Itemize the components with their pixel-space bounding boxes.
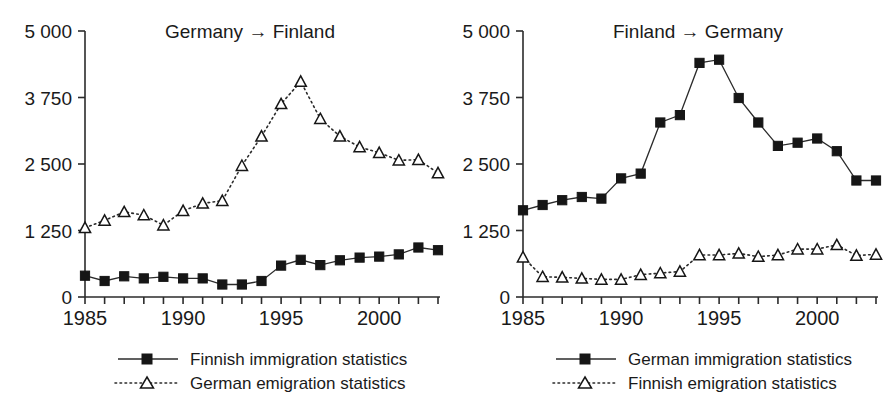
legend-label-left-series-1: German emigration statistics bbox=[190, 374, 405, 393]
data-point-right-1-1996 bbox=[733, 248, 744, 258]
data-point-left-1-2003 bbox=[432, 167, 443, 177]
data-point-left-0-2003 bbox=[433, 246, 442, 255]
chart-title-left: Germany → Finland bbox=[165, 21, 335, 42]
data-point-left-0-1998 bbox=[335, 256, 344, 265]
data-point-left-1-1999 bbox=[354, 141, 365, 151]
figure-container: Germany → Finland 0 1 250 2 500 3 750 5 … bbox=[0, 0, 896, 412]
x-tick-labels-right: 1985199019952000 bbox=[501, 307, 840, 329]
data-point-right-0-1990 bbox=[617, 174, 626, 183]
legend-square-marker-left bbox=[142, 354, 152, 364]
data-point-right-0-1992 bbox=[656, 118, 665, 127]
y-tick-label-2500: 2 500 bbox=[24, 154, 72, 175]
data-point-left-1-1997 bbox=[315, 113, 326, 123]
data-point-right-0-1999 bbox=[793, 138, 802, 147]
data-point-left-1-2001 bbox=[393, 155, 404, 165]
x-tick-label-1995: 1995 bbox=[697, 307, 742, 329]
data-point-left-0-1985 bbox=[80, 271, 89, 280]
data-point-left-0-1994 bbox=[257, 276, 266, 285]
legend-square-marker-right bbox=[580, 354, 590, 364]
legend-label-right-series-0: German immigration statistics bbox=[628, 350, 852, 369]
data-point-left-1-1987 bbox=[119, 206, 130, 216]
y-tick-label-3750-right: 3 750 bbox=[462, 88, 510, 109]
chart-svg-left: Germany → Finland 0 1 250 2 500 3 750 5 … bbox=[0, 0, 448, 412]
data-point-right-1-2003 bbox=[870, 249, 881, 259]
legend-left: Finnish immigration statistics German em… bbox=[115, 350, 407, 393]
data-point-left-0-1993 bbox=[237, 280, 246, 289]
chart-title-right: Finland → Germany bbox=[613, 21, 784, 42]
y-tick-label-1250: 1 250 bbox=[24, 221, 72, 242]
x-tick-label-2000: 2000 bbox=[795, 307, 840, 329]
data-point-left-0-1999 bbox=[355, 253, 364, 262]
data-point-left-0-1991 bbox=[198, 274, 207, 283]
data-point-right-0-2002 bbox=[852, 176, 861, 185]
x-tick-label-1990: 1990 bbox=[599, 307, 644, 329]
series-line-left-1 bbox=[85, 82, 438, 228]
legend-label-left-series-0: Finnish immigration statistics bbox=[190, 350, 407, 369]
x-tick-label-1995: 1995 bbox=[259, 307, 304, 329]
y-tick-label-3750: 3 750 bbox=[24, 88, 72, 109]
data-point-right-0-1997 bbox=[754, 118, 763, 127]
x-tick-label-1990: 1990 bbox=[161, 307, 206, 329]
data-point-right-0-2001 bbox=[832, 147, 841, 156]
data-point-right-0-1987 bbox=[558, 196, 567, 205]
y-tick-label-5000: 5 000 bbox=[24, 21, 72, 42]
data-point-left-0-1988 bbox=[139, 274, 148, 283]
data-point-right-0-1994 bbox=[695, 58, 704, 67]
data-point-right-1-1985 bbox=[517, 252, 528, 262]
x-tick-label-1985: 1985 bbox=[63, 307, 108, 329]
y-axis-left: 0 1 250 2 500 3 750 5 000 bbox=[24, 21, 85, 308]
y-tick-label-2500-right: 2 500 bbox=[462, 154, 510, 175]
data-point-left-1-1985 bbox=[79, 222, 90, 232]
data-point-left-0-1996 bbox=[296, 255, 305, 264]
legend-label-right-series-1: Finnish emigration statistics bbox=[628, 374, 837, 393]
data-point-left-1-1991 bbox=[197, 198, 208, 208]
data-point-right-0-1985 bbox=[518, 206, 527, 215]
x-axis-left: 1985199019952000 bbox=[63, 297, 440, 329]
data-point-left-1-1986 bbox=[99, 215, 110, 225]
data-point-left-0-2001 bbox=[394, 250, 403, 259]
x-ticks-left bbox=[85, 297, 438, 304]
data-point-right-0-1989 bbox=[597, 194, 606, 203]
x-axis-right: 1985199019952000 bbox=[501, 297, 878, 329]
data-point-left-1-1988 bbox=[138, 210, 149, 220]
plot-area-left bbox=[79, 76, 443, 289]
data-point-left-0-1990 bbox=[179, 274, 188, 283]
y-ticks-left bbox=[78, 31, 85, 297]
data-point-left-1-1994 bbox=[256, 131, 267, 141]
data-point-right-0-2000 bbox=[813, 134, 822, 143]
chart-panel-finland-to-germany: Finland → Germany 0 1 250 2 500 3 750 5 … bbox=[448, 0, 896, 412]
data-point-left-1-1996 bbox=[295, 76, 306, 86]
data-point-left-0-2002 bbox=[414, 243, 423, 252]
data-point-left-1-1993 bbox=[236, 160, 247, 170]
data-point-right-0-1991 bbox=[636, 169, 645, 178]
chart-svg-right: Finland → Germany 0 1 250 2 500 3 750 5 … bbox=[448, 0, 896, 412]
data-point-left-0-1987 bbox=[120, 272, 129, 281]
data-point-left-1-1990 bbox=[178, 205, 189, 215]
data-point-left-0-2000 bbox=[375, 252, 384, 261]
data-point-right-1-2001 bbox=[831, 239, 842, 249]
data-point-right-0-1993 bbox=[675, 111, 684, 120]
y-tick-label-0: 0 bbox=[61, 287, 72, 308]
y-tick-label-1250-right: 1 250 bbox=[462, 221, 510, 242]
y-tick-label-0-right: 0 bbox=[499, 287, 510, 308]
data-point-right-0-1986 bbox=[538, 200, 547, 209]
data-point-right-0-1996 bbox=[734, 93, 743, 102]
x-tick-label-2000: 2000 bbox=[357, 307, 402, 329]
data-point-right-0-2003 bbox=[871, 176, 880, 185]
y-tick-label-5000-right: 5 000 bbox=[462, 21, 510, 42]
data-point-left-1-1989 bbox=[158, 220, 169, 230]
data-point-left-0-1997 bbox=[316, 261, 325, 270]
y-axis-right: 0 1 250 2 500 3 750 5 000 bbox=[462, 21, 523, 308]
x-tick-label-1985: 1985 bbox=[501, 307, 546, 329]
data-point-left-1-1992 bbox=[217, 195, 228, 205]
legend-right: German immigration statistics Finnish em… bbox=[553, 350, 852, 393]
x-tick-labels-left: 1985199019952000 bbox=[63, 307, 402, 329]
data-point-left-0-1989 bbox=[159, 272, 168, 281]
data-point-left-0-1992 bbox=[218, 280, 227, 289]
data-point-right-0-1995 bbox=[715, 55, 724, 64]
data-point-left-0-1995 bbox=[277, 261, 286, 270]
series-line-right-0 bbox=[523, 60, 876, 211]
data-point-right-0-1988 bbox=[577, 192, 586, 201]
data-point-left-1-1995 bbox=[276, 98, 287, 108]
data-point-left-0-1986 bbox=[100, 276, 109, 285]
